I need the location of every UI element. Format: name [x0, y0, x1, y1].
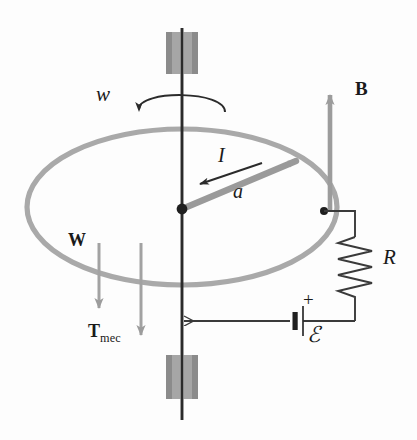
mechanical-torque-label: Tmec: [88, 322, 121, 344]
magnetic-field-label: B: [355, 79, 368, 98]
resistance-label: R: [383, 247, 396, 268]
resistor-zigzag: [338, 237, 372, 321]
pivot-dot: [177, 204, 188, 215]
torque-subscript: mec: [100, 331, 121, 345]
diagram-canvas: [0, 0, 417, 440]
battery-plus-label: +: [303, 290, 314, 309]
rod-length-label: a: [233, 181, 243, 201]
emf-label: ℰ: [307, 324, 320, 346]
angular-velocity-label: w: [96, 84, 110, 105]
battery-negative-plate: [293, 312, 298, 330]
external-circuit: [184, 207, 372, 336]
torque-symbol: T: [88, 321, 100, 341]
weight-label: W: [68, 231, 86, 249]
current-label: I: [218, 145, 225, 165]
physics-diagram-figure: w B I a R + ℰ W Tmec: [0, 0, 417, 440]
